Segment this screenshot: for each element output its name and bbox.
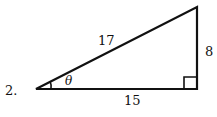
right-angle-marker <box>184 77 197 89</box>
angle-arc <box>50 81 51 89</box>
triangle <box>36 7 197 89</box>
adjacent-label: 15 <box>124 94 141 107</box>
right-triangle-diagram <box>0 0 217 117</box>
problem-number: 2. <box>5 84 17 97</box>
hypotenuse-label: 17 <box>98 34 115 47</box>
opposite-label: 8 <box>205 45 213 58</box>
angle-label: θ <box>65 75 72 87</box>
